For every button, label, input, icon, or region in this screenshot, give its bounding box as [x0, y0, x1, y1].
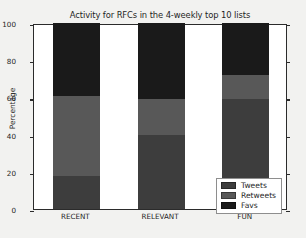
y-tick-label: 20: [0, 168, 16, 177]
y-tick-label: 40: [0, 131, 16, 140]
bar-recent: [53, 23, 100, 209]
y-tick-label: 80: [0, 57, 16, 66]
x-tick-label: RECENT: [61, 212, 90, 221]
chart-legend[interactable]: TweetsRetweetsFavs: [216, 178, 282, 214]
y-tick-mark: [286, 99, 290, 100]
y-tick-mark: [30, 137, 34, 138]
bar-segment-favs: [53, 23, 100, 96]
y-tick-label: 100: [0, 20, 16, 29]
y-tick-mark: [30, 174, 34, 175]
y-tick-mark: [286, 211, 290, 212]
legend-item-retweets[interactable]: Retweets: [221, 192, 276, 200]
legend-label: Retweets: [241, 192, 276, 200]
bar-segment-retweets: [138, 99, 185, 134]
y-tick-mark: [286, 174, 290, 175]
bar-segment-retweets: [53, 96, 100, 175]
bar-segment-favs: [138, 23, 185, 99]
legend-item-tweets[interactable]: Tweets: [221, 182, 276, 190]
legend-swatch-tweets: [221, 182, 236, 189]
bar-segment-retweets: [222, 75, 269, 99]
y-tick-mark: [286, 137, 290, 138]
x-tick-label: RELEVANT: [141, 212, 178, 221]
y-tick-mark: [286, 25, 290, 26]
legend-swatch-favs: [221, 202, 236, 209]
y-tick-mark: [30, 211, 34, 212]
bar-segment-tweets: [138, 135, 185, 209]
y-tick-mark: [30, 99, 34, 100]
bar-segment-tweets: [53, 176, 100, 209]
chart-figure: Activity for RFCs in the 4-weekly top 10…: [0, 0, 306, 238]
y-tick-mark: [30, 62, 34, 63]
y-tick-label: 60: [0, 94, 16, 103]
legend-swatch-retweets: [221, 192, 236, 199]
y-tick-label: 0: [0, 206, 16, 215]
bar-segment-favs: [222, 23, 269, 75]
legend-label: Tweets: [241, 182, 267, 190]
legend-item-favs[interactable]: Favs: [221, 202, 276, 210]
y-tick-mark: [30, 25, 34, 26]
y-tick-mark: [286, 62, 290, 63]
legend-label: Favs: [241, 202, 258, 210]
chart-title: Activity for RFCs in the 4-weekly top 10…: [33, 10, 287, 20]
bar-relevant: [138, 23, 185, 209]
